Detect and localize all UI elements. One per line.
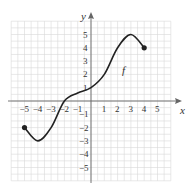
y-tick-label: 3 (83, 56, 88, 66)
x-tick-label: 4 (142, 104, 147, 114)
y-tick-label: 4 (83, 43, 88, 53)
x-tick-labels: −5−4−3−2−112345 (20, 104, 161, 114)
y-tick-label: −1 (79, 109, 89, 119)
x-axis-label: x (179, 104, 185, 116)
left-endpoint-dot (22, 125, 27, 130)
y-tick-label: −4 (79, 149, 89, 159)
x-tick-label: −4 (33, 104, 43, 114)
x-tick-label: 2 (115, 104, 120, 114)
x-tick-label: 1 (102, 104, 107, 114)
x-tick-label: 3 (128, 104, 133, 114)
y-tick-label: 5 (83, 30, 88, 40)
y-axis-label: y (80, 10, 86, 22)
y-tick-label: −2 (79, 123, 89, 133)
right-endpoint-dot (142, 45, 147, 50)
y-tick-label: −5 (79, 163, 89, 173)
x-tick-label: −5 (20, 104, 30, 114)
x-tick-label: −3 (46, 104, 56, 114)
x-tick-label: 5 (155, 104, 160, 114)
y-tick-label: 2 (83, 69, 88, 79)
function-graph: x y −5−4−3−2−112345 54321−1−2−3−4−5 f (0, 0, 192, 193)
y-tick-label: −3 (79, 136, 89, 146)
y-axis-arrow-icon (88, 12, 94, 19)
